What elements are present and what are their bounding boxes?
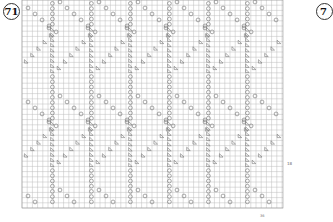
row-count-label: 18 [287,161,292,166]
stitch-count-label: 36 [260,214,264,218]
